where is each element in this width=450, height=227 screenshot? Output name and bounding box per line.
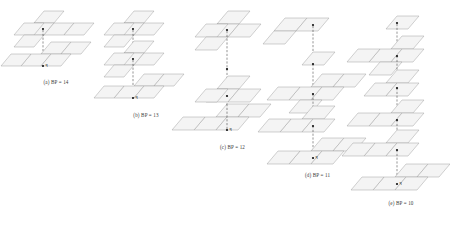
node-dot (312, 93, 314, 95)
panel-e-graphic: q (352, 14, 450, 199)
level-group-c1 (195, 76, 261, 102)
node-dot (312, 157, 314, 159)
node-dot (312, 24, 314, 26)
level-group-e3 (347, 100, 424, 126)
node-dot (42, 65, 44, 67)
panel-e: q (e) BP = 10 (352, 14, 450, 199)
node-dot (396, 87, 398, 89)
level-group-e5 (351, 164, 450, 190)
level-group-d1 (302, 52, 335, 65)
node-dot (396, 149, 398, 151)
node-dot (396, 55, 398, 57)
node-dot (396, 22, 398, 24)
node-dot (396, 183, 398, 185)
panel-caption-e: (e) BP = 10 (352, 201, 450, 206)
node-dot (226, 29, 228, 31)
panel-a: q (a) BP = 14 (6, 6, 106, 78)
level-group-a0 (14, 11, 94, 47)
node-dot (132, 97, 134, 99)
node-dot (312, 125, 314, 127)
panel-a-graphic: q (6, 6, 106, 78)
level-group-e4 (342, 130, 419, 156)
node-dot (132, 28, 134, 30)
level-group-d0 (263, 18, 329, 44)
panel-caption-a: (a) BP = 14 (6, 80, 106, 85)
node-dot (226, 68, 228, 70)
node-dot (42, 28, 44, 30)
node-dot (226, 95, 228, 97)
level-group-e0 (386, 16, 419, 29)
level-group-e1 (347, 36, 424, 75)
node-dot (312, 63, 314, 65)
level-group-b2 (94, 74, 184, 98)
node-dot (226, 129, 228, 131)
node-dot (396, 119, 398, 121)
level-group-c0 (195, 11, 261, 50)
level-group-c2 (172, 104, 271, 130)
node-dot (132, 58, 134, 60)
